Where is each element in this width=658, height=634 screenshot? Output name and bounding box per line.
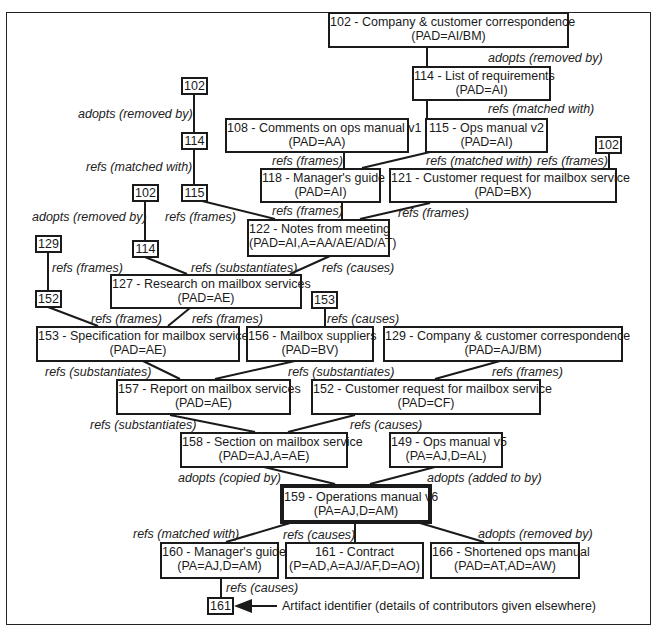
edge-label: refs (frames) <box>272 204 343 218</box>
node-pad: (PAD=AI/BM) <box>330 29 567 43</box>
node-156-mailbox-suppliers: 156 - Mailbox suppliers (PAD=BV) <box>246 326 374 362</box>
node-title: 121 - Customer request for mailbox servi… <box>391 171 615 185</box>
node-108-comments-ops-manual: 108 - Comments on ops manual v1 (PAD=AA) <box>225 118 409 153</box>
edge-label: refs (causes) <box>283 528 355 542</box>
node-118-managers-guide: 118 - Manager's guide (PAD=AI) <box>260 168 381 203</box>
node-pad: (PAD=AE) <box>112 291 300 305</box>
ref-box-152: 152 <box>35 290 62 308</box>
edge-label: refs (matched with) <box>86 160 192 174</box>
ref-box-102: 102 <box>181 77 208 95</box>
ref-box-115: 115 <box>181 184 208 202</box>
node-pad: (PAD=AA) <box>227 135 407 149</box>
node-pad: (PAD=CF) <box>313 396 539 410</box>
node-158-section-mailbox-service: 158 - Section on mailbox service (PAD=AJ… <box>180 432 348 468</box>
node-title: 102 - Company & customer correspondence <box>330 15 567 29</box>
node-title: 108 - Comments on ops manual v1 <box>227 121 407 135</box>
edge-label: refs (frames) <box>492 365 563 379</box>
node-pad: (PAD=AJ/BM) <box>385 343 621 357</box>
ref-box-114: 114 <box>181 132 208 150</box>
node-129-company-customer-correspondence: 129 - Company & customer correspondence … <box>383 326 623 362</box>
node-pad: (PAD=BV) <box>248 343 372 357</box>
node-pad: (PAD=AI) <box>262 185 379 199</box>
node-102-company-customer-correspondence: 102 - Company & customer correspondence … <box>328 12 569 48</box>
node-114-list-of-requirements: 114 - List of requirements (PAD=AI) <box>412 66 551 101</box>
node-title: 114 - List of requirements <box>414 69 549 83</box>
edge-label: refs (frames) <box>537 154 608 168</box>
node-title: 160 - Manager's guide <box>162 545 277 559</box>
node-pad: (PAD=AI) <box>414 83 549 97</box>
node-127-research-mailbox-services: 127 - Research on mailbox services (PAD=… <box>110 274 302 309</box>
node-title: 158 - Section on mailbox service <box>182 435 346 449</box>
ref-box-161: 161 <box>207 597 234 615</box>
node-122-notes-from-meeting: 122 - Notes from meeting (PAD=AI,A=AA/AE… <box>247 219 390 257</box>
node-160-managers-guide: 160 - Manager's guide (PA=AJ,D=AM) <box>160 542 279 579</box>
edge-label: adopts (removed by) <box>488 51 603 65</box>
node-title: 127 - Research on mailbox services <box>112 277 300 291</box>
edge-label: adopts (copied by) <box>178 471 281 485</box>
edge-label: refs (substantiates) <box>90 418 196 432</box>
edge-label: refs (substantiates) <box>45 365 151 379</box>
edge-label: adopts (added to by) <box>427 471 542 485</box>
edge-label: refs (matched with) <box>488 102 594 116</box>
edge-label: adopts (removed by) <box>78 107 193 121</box>
node-pad: (PAD=AJ,A=AE) <box>182 449 346 463</box>
node-title: 156 - Mailbox suppliers <box>248 329 372 343</box>
edge-label: refs (frames) <box>165 210 236 224</box>
edge-label: refs (frames) <box>91 312 162 326</box>
node-157-report-mailbox-services: 157 - Report on mailbox services (PAD=AE… <box>116 379 291 415</box>
node-pad: (P=AD,A=AJ/AF,D=AO) <box>287 559 422 573</box>
node-title: 166 - Shortened ops manual <box>432 545 578 559</box>
edge-label: refs (causes) <box>322 261 394 275</box>
edge-label: refs (frames) <box>52 261 123 275</box>
node-pad: (PA=AJ,D=AM) <box>284 504 428 518</box>
node-title: 129 - Company & customer correspondence <box>385 329 621 343</box>
edge-label: adopts (removed by) <box>478 527 593 541</box>
node-title: 153 - Specification for mailbox service <box>38 329 238 343</box>
edge-label: refs (matched with) <box>133 527 239 541</box>
ref-box-102: 102 <box>132 184 159 202</box>
edge-label: refs (causes) <box>327 312 399 326</box>
edge-label: refs (causes) <box>226 581 298 595</box>
node-159-operations-manual-v6: 159 - Operations manual v6 (PA=AJ,D=AM) <box>280 484 432 524</box>
node-pad: (PAD=AI,A=AA/AE/AD/AT) <box>249 236 388 250</box>
edge-label: refs (causes) <box>350 418 422 432</box>
node-153-specification: 153 - Specification for mailbox service … <box>36 326 240 362</box>
edge-label: refs (frames) <box>398 206 469 220</box>
ref-box-114: 114 <box>132 240 159 258</box>
node-pad: (PAD=AI) <box>427 135 546 149</box>
legend-text: Artifact identifier (details of contribu… <box>282 599 596 613</box>
edge-label: refs (substantiates) <box>288 365 394 379</box>
node-title: 157 - Report on mailbox services <box>118 382 289 396</box>
edge-label: refs (frames) <box>272 154 343 168</box>
node-115-ops-manual-v2: 115 - Ops manual v2 (PAD=AI) <box>425 118 548 153</box>
node-title: 118 - Manager's guide <box>262 171 379 185</box>
ref-box-153: 153 <box>311 291 338 309</box>
node-pad: (PAD=AE) <box>38 343 238 357</box>
node-title: 115 - Ops manual v2 <box>427 121 546 135</box>
node-pad: (PA=AJ,D=AM) <box>162 559 277 573</box>
edge-label: refs (matched with) <box>426 154 532 168</box>
ref-box-129: 129 <box>35 235 62 253</box>
node-pad: (PAD=BX) <box>391 185 615 199</box>
node-pad: (PA=AJ,D=AL) <box>391 449 501 463</box>
edge-label: refs (substantiates) <box>191 261 297 275</box>
node-title: 152 - Customer request for mailbox servi… <box>313 382 539 396</box>
node-pad: (PAD=AE) <box>118 396 289 410</box>
node-title: 122 - Notes from meeting <box>249 222 388 236</box>
edge-label: adopts (removed by) <box>32 210 147 224</box>
arrowhead-icon <box>234 599 252 613</box>
node-161-contract: 161 - Contract (P=AD,A=AJ/AF,D=AO) <box>285 542 424 579</box>
edge-label: refs (frames) <box>192 312 263 326</box>
node-title: 161 - Contract <box>287 545 422 559</box>
node-152-customer-request: 152 - Customer request for mailbox servi… <box>311 379 541 415</box>
node-title: 159 - Operations manual v6 <box>284 489 428 504</box>
ref-box-102: 102 <box>595 136 622 154</box>
node-149-ops-manual-v5: 149 - Ops manual v5 (PA=AJ,D=AL) <box>389 432 503 468</box>
node-166-shortened-ops-manual: 166 - Shortened ops manual (PAD=AT,AD=AW… <box>430 542 580 579</box>
node-title: 149 - Ops manual v5 <box>391 435 501 449</box>
node-pad: (PAD=AT,AD=AW) <box>432 559 578 573</box>
node-121-customer-request: 121 - Customer request for mailbox servi… <box>389 168 617 203</box>
